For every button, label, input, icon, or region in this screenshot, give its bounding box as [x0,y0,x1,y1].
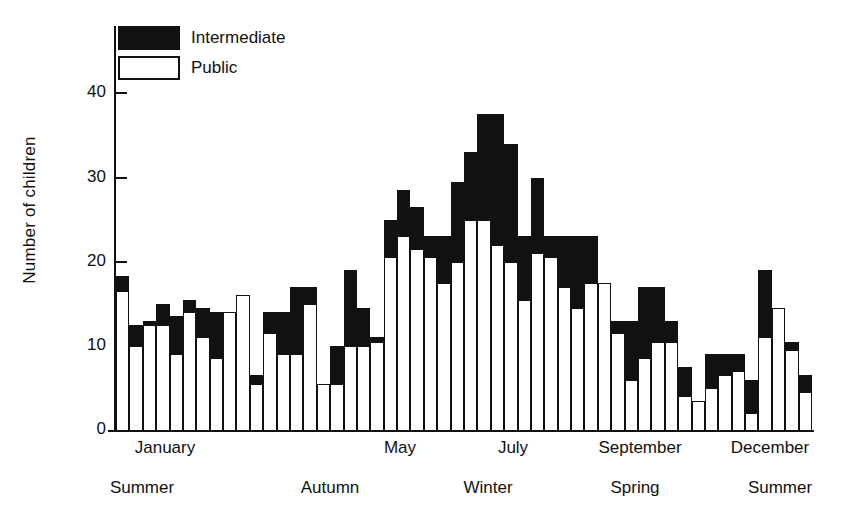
bar-segment-public [477,220,490,430]
bar-segment-intermediate [116,276,129,291]
month-label-july: July [498,438,528,458]
bar-segment-public [745,413,758,430]
bar-column [210,312,223,430]
bar-segment-intermediate [303,287,316,304]
bar-column [344,270,357,430]
season-label-3-spring: Spring [610,478,659,498]
bar-segment-public [504,262,517,430]
bar-column [732,354,745,430]
bar-segment-intermediate [410,207,423,249]
bar-column [772,308,785,430]
bar-segment-public [692,401,705,430]
month-label-may: May [384,438,416,458]
bar-column [424,236,437,430]
bar-segment-public [611,333,624,430]
bar-segment-public [357,346,370,430]
bar-segment-intermediate [625,321,638,380]
bar-column [277,312,290,430]
bar-column [263,312,276,430]
bar-column [170,316,183,430]
bar-column [303,287,316,430]
bar-segment-intermediate [290,287,303,354]
bar-column [745,380,758,431]
bar-column [491,114,504,430]
bar-segment-public [129,346,142,430]
bar-segment-intermediate [571,236,584,308]
plot-area [116,26,812,430]
bar-segment-intermediate [170,316,183,354]
bar-column [317,384,330,430]
bar-column [183,300,196,430]
bar-column [384,220,397,430]
bar-column [799,375,812,430]
bar-segment-public [758,337,771,430]
bar-segment-public [170,354,183,430]
bar-segment-public [544,257,557,430]
y-tick-label-20: 20 [66,251,106,271]
bar-segment-intermediate [651,287,664,342]
bar-column [651,287,664,430]
y-tick-label-10: 10 [66,335,106,355]
bar-column [544,236,557,430]
bar-column [196,308,209,430]
bar-segment-intermediate [678,367,691,396]
bar-segment-public [410,249,423,430]
bar-column [437,236,450,430]
bar-segment-intermediate [665,321,678,342]
bar-segment-intermediate [464,152,477,219]
bar-segment-public [464,220,477,430]
bar-segment-intermediate [183,300,196,313]
bar-segment-intermediate [611,321,624,334]
bar-column [625,321,638,430]
bar-column [236,295,249,430]
bar-column [504,144,517,430]
bar-segment-public [290,354,303,430]
bar-column [558,236,571,430]
bar-segment-intermediate [156,304,169,325]
bar-segment-intermediate [330,346,343,384]
bar-segment-intermediate [424,236,437,257]
y-tick-label-0: 0 [66,419,106,439]
bar-column [758,270,771,430]
bar-segment-public [183,312,196,430]
bar-column [156,304,169,430]
bar-column [410,207,423,430]
y-tick-label-40: 40 [66,82,106,102]
bar-segment-intermediate [451,182,464,262]
bar-column [290,287,303,430]
bar-column [518,236,531,430]
bar-segment-public [437,283,450,430]
bar-segment-intermediate [531,178,544,254]
bar-column [531,178,544,431]
month-label-september: September [598,438,681,458]
bar-segment-public [236,295,249,430]
bar-segment-public [584,283,597,430]
bar-segment-public [571,308,584,430]
bar-segment-public [799,392,812,430]
bar-column [678,367,691,430]
bar-segment-intermediate [705,354,718,388]
bar-column [250,375,263,430]
bar-segment-intermediate [785,342,798,350]
bar-segment-intermediate [196,308,209,337]
bar-segment-public [732,371,745,430]
bar-segment-public [785,350,798,430]
bar-segment-public [116,291,129,430]
bar-segment-intermediate [544,236,557,257]
y-axis-title: Number of children [20,30,40,390]
bar-segment-intermediate [250,375,263,383]
bar-segment-intermediate [263,312,276,333]
month-label-january: January [135,438,195,458]
bar-segment-public [705,388,718,430]
bar-column [451,182,464,430]
bar-segment-intermediate [277,312,290,354]
bar-segment-public [491,245,504,430]
bar-segment-intermediate [357,308,370,346]
bar-segment-public [598,283,611,430]
bar-segment-public [263,333,276,430]
bar-segment-intermediate [397,190,410,236]
bar-segment-intermediate [143,321,156,325]
bar-column [143,321,156,430]
bar-segment-public [143,325,156,430]
bar-segment-public [678,396,691,430]
